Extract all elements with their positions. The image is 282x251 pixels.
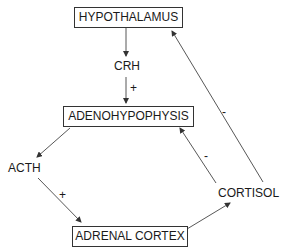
sign-cortisol-hypo-minus: - (222, 106, 226, 118)
arrow-cortisol-to-adenohypophysis (180, 128, 216, 183)
label-acth: ACTH (8, 161, 41, 175)
label-crh: CRH (114, 59, 140, 73)
node-adenohypophysis: ADENOHYPOPHYSIS (63, 106, 194, 127)
sign-acth-plus: + (59, 189, 66, 201)
node-adenohypophysis-label: ADENOHYPOPHYSIS (68, 109, 189, 123)
arrow-adrenal-cortex-to-cortisol (187, 203, 230, 229)
node-adrenal-cortex: ADRENAL CORTEX (72, 226, 188, 247)
sign-cortisol-adeno-minus: - (204, 150, 208, 162)
node-hypothalamus-label: HYPOTHALAMUS (79, 10, 178, 24)
sign-crh-plus: + (130, 82, 137, 94)
label-cortisol: CORTISOL (218, 186, 279, 200)
node-adrenal-cortex-label: ADRENAL CORTEX (75, 229, 184, 243)
arrow-adenohypophysis-to-acth (37, 128, 70, 157)
node-hypothalamus: HYPOTHALAMUS (74, 7, 183, 28)
